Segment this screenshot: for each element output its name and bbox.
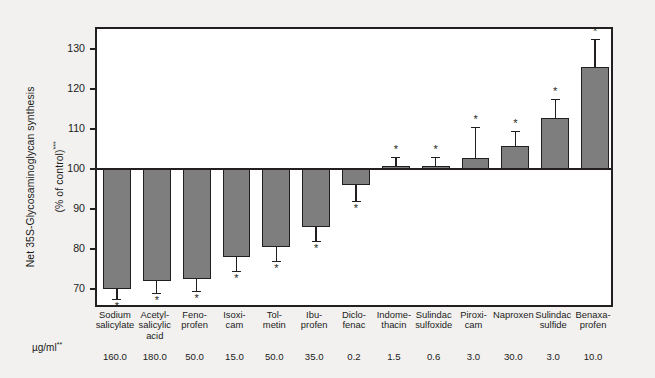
y-tick-mark <box>90 88 97 90</box>
bar-6 <box>342 169 370 185</box>
significance-star-4: * <box>269 263 283 274</box>
bar-10 <box>501 146 529 169</box>
bar-3 <box>223 169 251 257</box>
significance-star-2: * <box>190 293 204 304</box>
y-tick-label: 90 <box>49 203 85 214</box>
y-tick-mark <box>90 288 97 290</box>
error-bar-3 <box>236 257 237 271</box>
y-axis-title-line1: Net 35S-Glycosaminoglycan synthesis <box>25 87 36 268</box>
significance-star-9: * <box>469 114 483 125</box>
figure-root: Net 35S-Glycosaminoglycan synthesis (% o… <box>0 0 655 378</box>
significance-star-7: * <box>389 144 403 155</box>
bar-7 <box>382 166 410 169</box>
error-bar-11 <box>555 99 556 118</box>
significance-star-5: * <box>309 243 323 254</box>
error-bar-6 <box>355 185 356 201</box>
error-cap-12 <box>591 39 600 40</box>
x-label-12: Benaxa- profen <box>569 310 617 331</box>
error-bar-5 <box>315 227 316 241</box>
error-cap-10 <box>511 131 520 132</box>
error-cap-9 <box>471 127 480 128</box>
error-bar-2 <box>196 279 197 291</box>
bar-5 <box>302 169 330 227</box>
significance-star-10: * <box>508 118 522 129</box>
error-bar-1 <box>156 281 157 293</box>
y-tick-label: 80 <box>49 243 85 254</box>
y-tick-label: 120 <box>49 83 85 94</box>
dose-unit-label: µg/ml** <box>32 341 62 353</box>
error-bar-0 <box>116 289 117 299</box>
significance-star-3: * <box>229 273 243 284</box>
y-tick-label: 110 <box>49 123 85 134</box>
y-tick-mark <box>90 248 97 250</box>
significance-star-1: * <box>150 295 164 306</box>
significance-star-8: * <box>429 144 443 155</box>
dose-unit-text: µg/ml <box>32 342 57 353</box>
bar-0 <box>103 169 131 289</box>
error-cap-8 <box>431 157 440 158</box>
bar-4 <box>262 169 290 247</box>
error-bar-10 <box>515 131 516 146</box>
significance-star-6: * <box>349 203 363 214</box>
bar-12 <box>581 67 609 169</box>
y-tick-mark <box>90 128 97 130</box>
bar-9 <box>462 158 490 169</box>
bar-1 <box>143 169 171 281</box>
error-bar-9 <box>475 127 476 158</box>
bar-2 <box>183 169 211 279</box>
significance-star-11: * <box>548 86 562 97</box>
plot-area: 708090100110120130 ************* <box>95 27 613 307</box>
y-tick-label: 70 <box>49 283 85 294</box>
y-tick-label: 130 <box>49 43 85 54</box>
bar-8 <box>422 166 450 169</box>
error-bar-4 <box>276 247 277 261</box>
error-bar-12 <box>594 39 595 67</box>
y-tick-mark <box>90 48 97 50</box>
y-tick-mark <box>90 208 97 210</box>
dose-unit-superscript: ** <box>57 341 62 348</box>
error-cap-7 <box>391 157 400 158</box>
significance-star-12: * <box>588 26 602 37</box>
y-tick-label: 100 <box>49 163 85 174</box>
y-tick-mark <box>90 168 97 170</box>
x-dose-12: 10.0 <box>569 352 617 362</box>
x-axis-labels: Sodium salicylate160.0Acetyl- salicylic … <box>95 310 613 368</box>
y-axis-title-superscript: *** <box>52 141 59 149</box>
bar-11 <box>541 118 569 169</box>
error-cap-11 <box>551 99 560 100</box>
